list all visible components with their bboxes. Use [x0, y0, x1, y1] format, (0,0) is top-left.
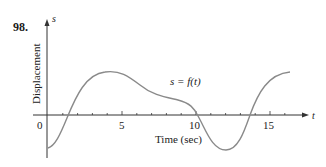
- x-tick-label-10: 10: [189, 119, 201, 131]
- curve-label: s = f(t): [170, 75, 201, 88]
- y-axis-label: Displacement: [30, 44, 42, 104]
- y-axis-arrow-icon: [45, 19, 50, 26]
- displacement-chart: s t 0 5 10 15 Time (sec) Displacement s …: [0, 0, 326, 167]
- x-axis-name: t: [312, 110, 315, 121]
- x-axis-arrow-icon: [302, 113, 309, 118]
- x-tick-label-15: 15: [263, 119, 275, 131]
- x-tick-label-5: 5: [119, 119, 125, 131]
- x-axis-label: Time (sec): [155, 133, 202, 146]
- y-axis-name: s: [52, 13, 56, 24]
- x-tick-label-0: 0: [37, 119, 43, 131]
